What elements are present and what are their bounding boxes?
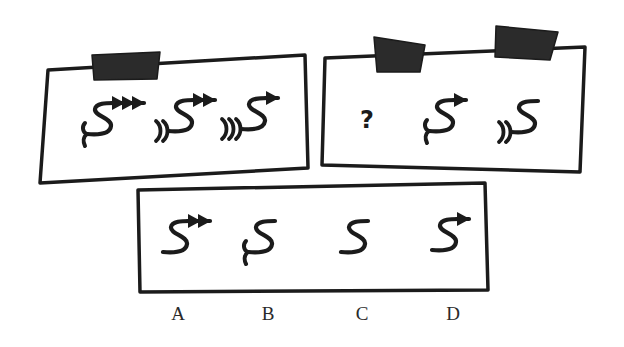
- tail-arc: [156, 121, 161, 141]
- tail-arc: [236, 119, 241, 139]
- option-label-d[interactable]: D: [446, 303, 460, 325]
- options-panel[interactable]: [138, 183, 488, 292]
- option-label-c[interactable]: C: [356, 303, 369, 325]
- symbol-glyph: [432, 212, 470, 250]
- arrowhead-icon: [454, 93, 467, 107]
- arrowhead-icon: [132, 96, 145, 110]
- symbol-glyph: [425, 93, 467, 143]
- symbol-glyph: [83, 96, 145, 146]
- panel-tab: [92, 52, 160, 80]
- panel-tab: [495, 26, 558, 60]
- s-curve: [429, 100, 456, 131]
- symbol-glyph: [341, 221, 368, 252]
- tail-arc: [222, 119, 227, 139]
- s-curve: [432, 219, 459, 250]
- panel-tab: [374, 37, 425, 72]
- s-curve: [511, 101, 538, 132]
- arrowhead-icon: [198, 214, 211, 228]
- right-panel: ?: [322, 26, 585, 172]
- puzzle-canvas: ?: [0, 0, 624, 347]
- arrowhead-icon: [266, 91, 279, 105]
- symbol-glyph: [244, 221, 275, 264]
- question-mark: ?: [360, 106, 374, 134]
- tail-arc: [506, 122, 511, 142]
- puzzle-figure: ? A B C D: [0, 0, 624, 347]
- symbol-glyph: [222, 91, 279, 139]
- symbol-glyph: [163, 214, 211, 252]
- option-label-a[interactable]: A: [171, 303, 185, 325]
- tail-fork: [426, 131, 429, 143]
- symbol-glyph: [156, 93, 216, 141]
- option-label-b[interactable]: B: [262, 303, 275, 325]
- s-curve: [241, 98, 268, 129]
- arrowhead-icon: [203, 93, 216, 107]
- s-curve: [163, 221, 190, 252]
- panel-border: [40, 55, 308, 183]
- tail-fork: [245, 252, 248, 264]
- panel-border: [138, 183, 488, 292]
- arrowhead-icon: [457, 212, 470, 226]
- s-curve: [87, 103, 114, 134]
- symbol-glyph: [499, 101, 538, 142]
- s-curve: [341, 221, 368, 252]
- tail-arc: [229, 119, 234, 139]
- left-panel: [40, 52, 308, 183]
- tail-fork: [84, 134, 87, 146]
- tail-arc: [163, 121, 168, 141]
- s-curve: [168, 100, 195, 131]
- s-curve: [248, 221, 275, 252]
- tail-arc: [499, 122, 504, 142]
